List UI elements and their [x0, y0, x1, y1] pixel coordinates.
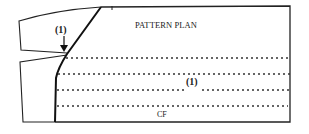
marker-label-top: (1): [55, 25, 67, 35]
marker-label-middle: (1): [186, 77, 198, 87]
pattern-plan-diagram: PATTERN PLAN (1) (1) CF: [0, 0, 309, 134]
center-front-label: CF: [157, 111, 167, 119]
diagram-title: PATTERN PLAN: [135, 21, 197, 30]
arrow-down-icon: [60, 45, 68, 52]
